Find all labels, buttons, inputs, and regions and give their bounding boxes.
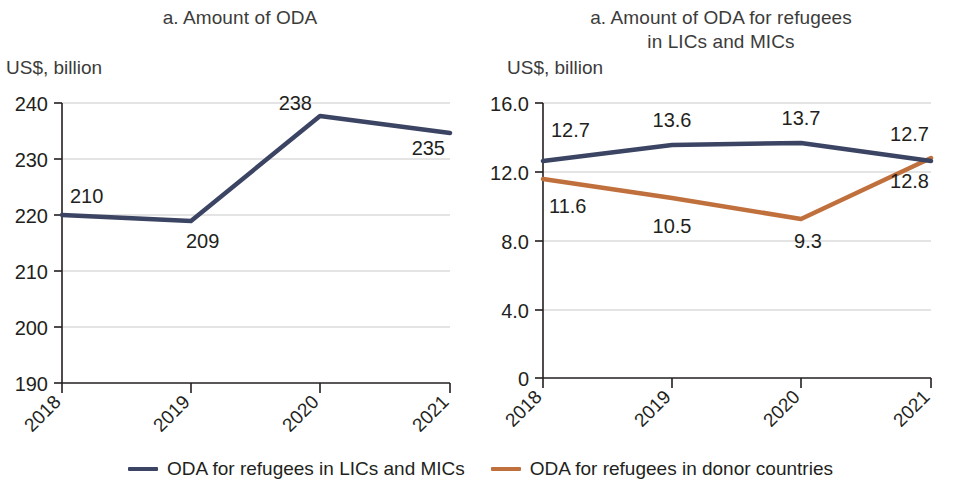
figure-container: a. Amount of ODA US$, billion [0,0,961,493]
y-tick-label: 240 [15,93,48,115]
data-label: 238 [279,92,312,114]
y-tick-labels-right: 16.0 12.0 8.0 4.0 0 [490,93,529,390]
x-tick-label: 2020 [759,386,804,431]
chart-panel-left: a. Amount of ODA US$, billion [0,0,480,450]
series-line-lics-mics [62,116,450,221]
panel-title-left: a. Amount of ODA [0,6,480,30]
chart-legend: ODA for refugees in LICs and MICs ODA fo… [0,458,961,480]
legend-item-lics-mics[interactable]: ODA for refugees in LICs and MICs [128,458,465,480]
x-axis-right [543,378,931,388]
legend-swatch-icon [491,467,521,471]
data-label: 210 [70,185,103,207]
x-tick-label: 2019 [149,391,194,436]
x-tick-label: 2019 [630,386,675,431]
y-axis-unit-left: US$, billion [6,57,102,79]
y-tick-label: 190 [15,373,48,395]
legend-label: ODA for refugees in LICs and MICs [167,458,465,480]
y-tick-label: 220 [15,205,48,227]
x-tick-labels-left: 2018 2019 2020 2021 [20,391,453,436]
data-label: 11.6 [549,195,586,217]
x-axis-left [62,383,450,393]
data-label: 235 [412,137,445,159]
panel-title-left-line1: a. Amount of ODA [163,7,318,28]
data-label: 9.3 [794,230,822,252]
data-label: 209 [186,230,219,252]
y-tick-labels-left: 240 230 220 210 200 190 [15,93,48,395]
plot-area-right: 16.0 12.0 8.0 4.0 0 2018 2019 2020 2021 [481,85,961,450]
y-tick-label: 12.0 [490,162,529,184]
data-label: 12.7 [890,123,929,145]
data-label: 12.7 [551,119,590,141]
legend-item-donor-countries[interactable]: ODA for refugees in donor countries [491,458,833,480]
plot-area-left: 240 230 220 210 200 190 2018 2019 2020 2… [0,85,480,450]
y-tick-label: 16.0 [490,93,529,115]
y-tick-label: 230 [15,149,48,171]
data-labels-left: 210 209 238 235 [70,92,445,252]
legend-label: ODA for refugees in donor countries [530,458,833,480]
panel-title-right-line2: in LICs and MICs [481,30,961,54]
legend-swatch-icon [128,467,158,471]
y-axis-unit-right: US$, billion [507,57,603,79]
x-tick-label: 2018 [20,391,65,436]
x-tick-label: 2021 [889,386,934,431]
data-label: 12.8 [890,170,929,192]
x-tick-labels-right: 2018 2019 2020 2021 [501,386,934,431]
y-tick-label: 0 [518,368,529,390]
x-tick-label: 2020 [278,391,323,436]
panel-title-right: a. Amount of ODA for refugees in LICs an… [481,6,961,54]
data-labels-lics-mics-right: 12.7 13.6 13.7 12.7 [551,107,929,145]
line-chart-left: 240 230 220 210 200 190 2018 2019 2020 2… [0,85,480,450]
data-label: 13.7 [782,107,821,129]
y-tick-label: 8.0 [501,231,529,253]
x-tick-label: 2021 [408,391,453,436]
gridlines-left [62,103,450,327]
y-axis-right [535,103,543,378]
panel-title-right-line1: a. Amount of ODA for refugees [590,7,852,28]
line-chart-right: 16.0 12.0 8.0 4.0 0 2018 2019 2020 2021 [481,85,961,450]
y-tick-label: 4.0 [501,300,529,322]
x-tick-label: 2018 [501,386,546,431]
y-tick-label: 210 [15,261,48,283]
data-label: 13.6 [653,109,692,131]
series-line-lics-mics [543,143,931,161]
series-line-donor-countries [543,158,931,219]
chart-panel-right: a. Amount of ODA for refugees in LICs an… [481,0,961,450]
y-tick-label: 200 [15,317,48,339]
data-label: 10.5 [653,215,692,237]
y-axis-left [54,103,62,383]
